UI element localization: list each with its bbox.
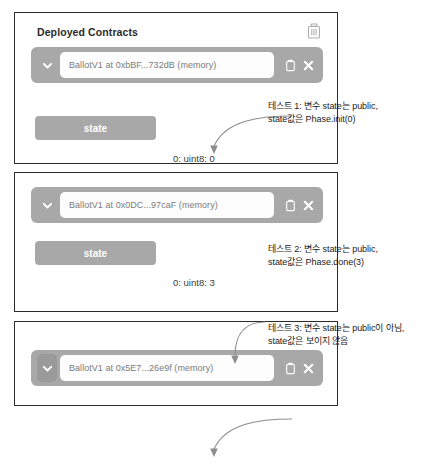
- contract-address-text: BallotV1 at 0xbBF...732dB (memory): [69, 60, 216, 70]
- contract-address-text: BallotV1 at 0x0DC...97caF (memory): [69, 200, 218, 210]
- close-icon[interactable]: [301, 359, 316, 377]
- contract-address-field[interactable]: BallotV1 at 0x0DC...97caF (memory): [60, 192, 274, 218]
- state-result-value: 0: uint8: 3: [173, 277, 215, 288]
- chevron-down-icon[interactable]: [37, 51, 57, 79]
- deployed-contracts-panel-1: Deployed Contracts BallotV1 at 0xbBF...7…: [14, 12, 338, 164]
- page-title: Deployed Contracts: [37, 26, 138, 38]
- copy-icon[interactable]: [283, 196, 298, 214]
- chevron-down-icon[interactable]: [37, 191, 57, 219]
- state-button[interactable]: state: [35, 241, 156, 265]
- annotation-text-2: 테스트 2: 변수 state는 public, state값은 Phase.d…: [268, 243, 378, 268]
- state-result-value: 0: uint8: 0: [173, 153, 215, 164]
- deployed-contracts-panel-2: BallotV1 at 0x0DC...97caF (memory) state…: [14, 172, 338, 312]
- contract-address-field[interactable]: BallotV1 at 0x5E7...26e9f (memory): [60, 355, 274, 381]
- contract-address-field[interactable]: BallotV1 at 0xbBF...732dB (memory): [60, 52, 274, 78]
- annotation-arrow-2: [200, 411, 292, 459]
- copy-icon[interactable]: [283, 359, 298, 377]
- contract-address-text: BallotV1 at 0x5E7...26e9f (memory): [69, 363, 213, 373]
- close-icon[interactable]: [301, 196, 316, 214]
- contract-bar[interactable]: BallotV1 at 0x5E7...26e9f (memory): [31, 350, 323, 386]
- contract-bar[interactable]: BallotV1 at 0x0DC...97caF (memory): [31, 187, 323, 223]
- copy-icon[interactable]: [283, 56, 298, 74]
- annotation-text-1: 테스트 1: 변수 state는 public, state값은 Phase.i…: [268, 100, 378, 125]
- annotation-text-3: 테스트 3: 변수 state는 public이 아님, state값은 보이지…: [268, 322, 404, 347]
- trash-icon[interactable]: [307, 23, 321, 39]
- close-icon[interactable]: [301, 56, 316, 74]
- chevron-down-icon[interactable]: [37, 354, 57, 382]
- contract-bar[interactable]: BallotV1 at 0xbBF...732dB (memory): [31, 47, 323, 83]
- state-button[interactable]: state: [35, 116, 156, 140]
